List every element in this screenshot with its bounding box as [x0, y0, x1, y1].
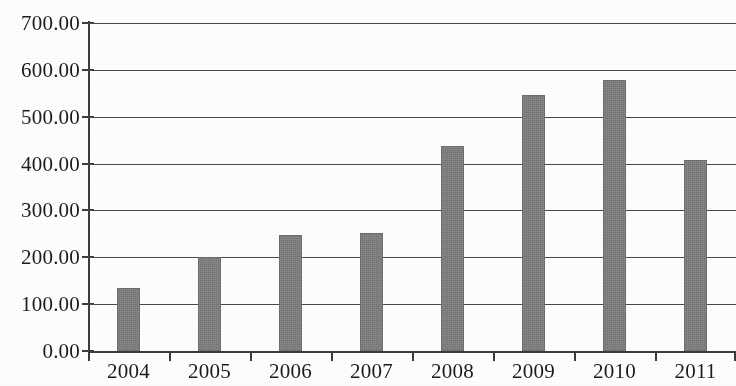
bar-chart: 0.00100.00200.00300.00400.00500.00600.00…	[0, 0, 736, 386]
bar	[522, 95, 545, 351]
bar	[198, 257, 221, 351]
x-axis-tick-label: 2005	[188, 358, 231, 384]
y-axis-tick-label: 500.00	[0, 106, 80, 127]
y-axis-tick-label: 400.00	[0, 153, 80, 174]
x-axis-tick-label: 2008	[431, 358, 474, 384]
bar	[441, 146, 464, 351]
x-axis-tick-label: 2011	[674, 358, 716, 384]
y-axis-tick-label: 200.00	[0, 247, 80, 268]
y-axis-tick-label: 100.00	[0, 294, 80, 315]
y-axis-tick-label: 300.00	[0, 200, 80, 221]
bar	[360, 233, 383, 351]
y-axis-labels: 0.00100.00200.00300.00400.00500.00600.00…	[0, 0, 80, 386]
bar	[117, 288, 140, 351]
bars-layer	[88, 0, 736, 352]
y-axis-tick-label: 0.00	[0, 341, 80, 362]
bar	[684, 160, 707, 351]
x-axis-tick-label: 2009	[512, 358, 555, 384]
x-axis-tick-label: 2006	[269, 358, 312, 384]
bar	[279, 235, 302, 351]
y-axis-tick-label: 600.00	[0, 59, 80, 80]
y-axis-tick-label: 700.00	[0, 13, 80, 34]
bar	[603, 80, 626, 351]
x-axis-tick-label: 2010	[593, 358, 636, 384]
x-axis-labels: 20042005200620072008200920102011	[88, 358, 736, 386]
x-axis-tick-label: 2004	[107, 358, 150, 384]
x-axis-tick-label: 2007	[350, 358, 393, 384]
